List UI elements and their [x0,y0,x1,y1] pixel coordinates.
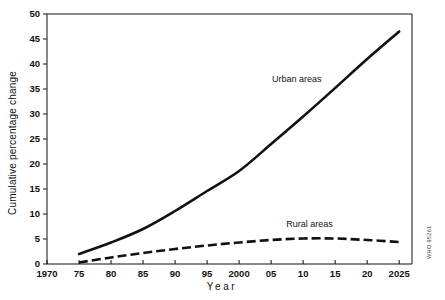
y-tick-label: 15 [29,183,40,194]
x-axis-title: Year [207,281,238,292]
y-tick-label: 20 [29,158,40,169]
series-label-rural-areas: Rural areas [286,219,333,229]
y-tick-label: 45 [29,33,40,44]
y-tick-label: 30 [29,108,40,119]
y-tick-label: 25 [29,133,40,144]
x-tick-label: 2025 [389,268,411,279]
x-tick-label: 75 [74,268,85,279]
x-tick-label: 90 [170,268,181,279]
y-tick-label: 35 [29,83,40,94]
line-chart: 05101520253035404550 1970758085909520000… [0,0,445,300]
x-tick-label: 85 [138,268,149,279]
chart-background [0,0,445,300]
chart-container: 05101520253035404550 1970758085909520000… [0,0,445,300]
y-tick-label: 50 [29,8,40,19]
x-tick-label: 20 [362,268,373,279]
y-axis-title: Cumulative percentage change [7,71,18,215]
y-tick-label: 40 [29,58,40,69]
source-code-annotation: WHO 95261 [426,226,432,259]
y-tick-label: 10 [29,208,40,219]
x-tick-label: 1970 [36,268,57,279]
x-tick-label: 2000 [229,268,250,279]
series-label-urban-areas: Urban areas [272,74,322,84]
x-tick-label: 95 [202,268,213,279]
x-tick-label: 15 [330,268,341,279]
x-tick-label: 05 [266,268,277,279]
x-tick-label: 10 [298,268,309,279]
x-tick-label: 80 [106,268,117,279]
y-tick-label: 5 [35,233,41,244]
